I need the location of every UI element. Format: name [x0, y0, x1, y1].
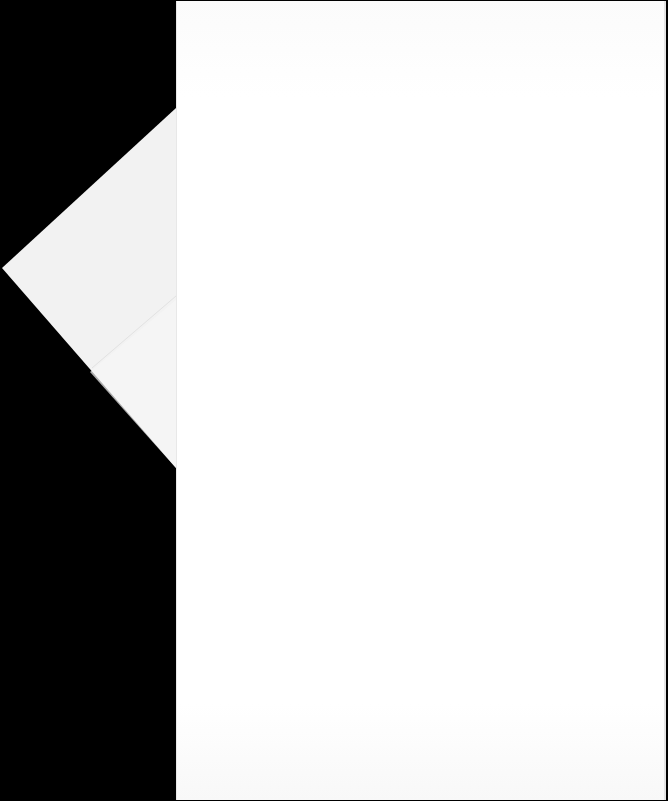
photo-scene — [0, 0, 668, 801]
fold-crease-line — [0, 0, 668, 801]
